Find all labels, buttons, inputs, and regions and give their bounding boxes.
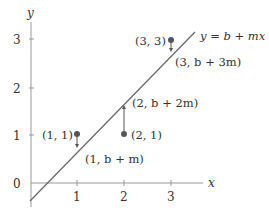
regression-diagram: y x 3 2 1 0 1 2 3 y = b + mx (1, 1) (2, … <box>0 0 269 215</box>
label-fitted-3: (3, b + 3m) <box>175 55 241 69</box>
x-tick-label-1: 1 <box>73 190 81 204</box>
label-fitted-2: (2, b + 2m) <box>132 96 198 110</box>
x-tick-label-3: 3 <box>167 190 175 204</box>
y-tick-label-0: 0 <box>13 177 21 191</box>
y-axis-label: y <box>26 6 34 20</box>
regression-line <box>30 32 195 201</box>
regression-line-label: y = b + mx <box>199 29 266 43</box>
label-fitted-1: (1, b + m) <box>85 152 144 166</box>
y-tick-label-3: 3 <box>13 33 21 47</box>
label-point-2-1: (2, 1) <box>131 128 162 142</box>
data-point-3-3 <box>168 37 174 43</box>
x-tick-label-2: 2 <box>120 190 128 204</box>
x-axis-label: x <box>208 176 215 190</box>
y-tick-label-1: 1 <box>13 129 21 143</box>
label-point-1-1: (1, 1) <box>42 128 73 142</box>
label-point-3-3: (3, 3) <box>135 34 166 48</box>
y-tick-label-2: 2 <box>13 82 21 96</box>
data-point-1-1 <box>74 131 80 137</box>
data-point-2-1 <box>121 131 127 137</box>
